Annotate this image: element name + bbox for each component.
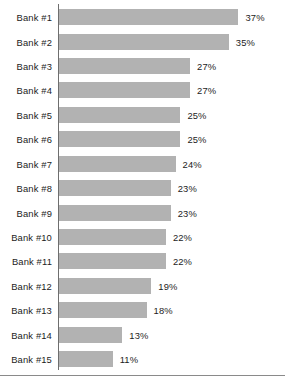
category-label: Bank #2 [0, 36, 52, 47]
bar-value-label: 22% [173, 256, 192, 267]
bar-row: Bank #1413% [0, 323, 285, 347]
bar-row: Bank #525% [0, 103, 285, 127]
bar [59, 327, 122, 343]
bar-value-label: 13% [129, 329, 148, 340]
bar-row: Bank #923% [0, 200, 285, 224]
bar [59, 229, 165, 245]
bar-row: Bank #1219% [0, 274, 285, 298]
bar-row: Bank #1022% [0, 225, 285, 249]
bar [59, 58, 190, 74]
category-label: Bank #3 [0, 61, 52, 72]
category-label: Bank #8 [0, 183, 52, 194]
bar-track [59, 156, 175, 172]
bar-track [59, 253, 165, 269]
category-label: Bank #4 [0, 85, 52, 96]
value-axis-line [58, 4, 59, 370]
bar-track [59, 107, 180, 123]
bar [59, 34, 228, 50]
bar [59, 9, 238, 25]
bar-track [59, 302, 146, 318]
category-label: Bank #7 [0, 158, 52, 169]
bar-value-label: 27% [197, 61, 216, 72]
category-label: Bank #12 [0, 280, 52, 291]
bar-value-label: 35% [236, 36, 255, 47]
category-label: Bank #13 [0, 305, 52, 316]
bar-value-label: 18% [154, 305, 173, 316]
bar-track [59, 9, 238, 25]
bar-track [59, 327, 122, 343]
bar-track [59, 351, 112, 367]
figure-bottom-rule [0, 375, 285, 376]
bar-track [59, 180, 170, 196]
bar-row: Bank #625% [0, 127, 285, 151]
bar [59, 107, 180, 123]
bar-row: Bank #1318% [0, 298, 285, 322]
bar [59, 302, 146, 318]
bar-row: Bank #724% [0, 152, 285, 176]
bar-row: Bank #235% [0, 29, 285, 53]
category-label: Bank #6 [0, 134, 52, 145]
category-label: Bank #9 [0, 207, 52, 218]
bar-row: Bank #823% [0, 176, 285, 200]
bar-row: Bank #327% [0, 54, 285, 78]
bar-row: Bank #1511% [0, 347, 285, 371]
bar [59, 131, 180, 147]
bar [59, 278, 151, 294]
bar-track [59, 278, 151, 294]
bar-track [59, 205, 170, 221]
bar-value-label: 27% [197, 85, 216, 96]
bar-track [59, 82, 190, 98]
category-label: Bank #11 [0, 256, 52, 267]
bar-row: Bank #1122% [0, 249, 285, 273]
category-label: Bank #14 [0, 329, 52, 340]
bar-value-label: 23% [178, 183, 197, 194]
category-label: Bank #10 [0, 232, 52, 243]
bar [59, 156, 175, 172]
bar [59, 205, 170, 221]
bar-value-label: 23% [178, 207, 197, 218]
bar-value-label: 25% [187, 134, 206, 145]
category-label: Bank #15 [0, 354, 52, 365]
bar-row: Bank #137% [0, 5, 285, 29]
bar [59, 180, 170, 196]
bar-value-label: 11% [120, 354, 139, 365]
bar [59, 253, 165, 269]
bar-track [59, 34, 228, 50]
bar-rows-container: Bank #137%Bank #235%Bank #327%Bank #427%… [0, 0, 285, 383]
bar-value-label: 24% [183, 158, 202, 169]
bar-track [59, 229, 165, 245]
bar-row: Bank #427% [0, 78, 285, 102]
bar-value-label: 25% [187, 109, 206, 120]
bar [59, 351, 112, 367]
bar [59, 82, 190, 98]
category-label: Bank #1 [0, 12, 52, 23]
bar-value-label: 37% [245, 12, 264, 23]
bar-value-label: 19% [158, 280, 177, 291]
bar-track [59, 131, 180, 147]
bar-track [59, 58, 190, 74]
horizontal-bar-chart: Bank #137%Bank #235%Bank #327%Bank #427%… [0, 0, 285, 383]
bar-value-label: 22% [173, 232, 192, 243]
category-label: Bank #5 [0, 109, 52, 120]
